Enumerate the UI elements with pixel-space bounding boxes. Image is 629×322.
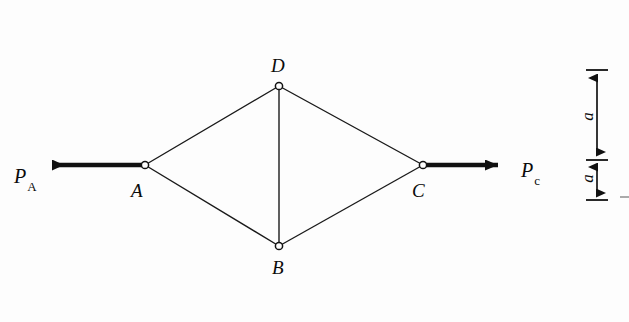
node-label-D: D [271,56,285,75]
force-subscript-PA: A [27,179,36,194]
member-D-C [279,86,423,165]
force-subscript-Pc: c [534,173,540,188]
joint-B [275,242,282,249]
member-A-B [145,165,279,246]
scan-artifact-dash [620,196,629,198]
truss-members [145,86,423,246]
force-symbol-PA: P [14,165,26,187]
force-label-Pc: Pc [521,160,539,184]
force-label-PA: PA [14,166,36,190]
member-B-C [279,165,423,246]
joint-D [275,82,282,89]
node-label-C: C [412,181,425,200]
node-label-A: A [131,181,143,200]
joint-C [419,161,426,168]
force-symbol-Pc: P [521,159,533,181]
joint-A [141,161,148,168]
member-A-D [145,86,279,165]
dimension-label-a-upper: a [579,112,596,121]
dimension-label-a-lower: a [579,174,596,183]
figure-canvas: D A C B PA Pc a a [0,0,629,322]
node-label-B: B [272,258,284,277]
pin-joints [141,82,426,249]
